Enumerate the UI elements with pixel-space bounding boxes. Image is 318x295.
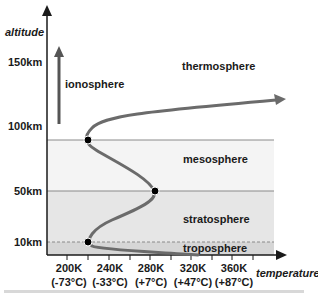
x-tick-240k-celsius: (-33°C) [92,276,128,288]
stratopause-point [151,187,159,195]
x-tick-320k: 320K [180,262,206,274]
x-tick-200k-celsius: (-73°C) [51,276,87,288]
y-tick-100km: 100km [8,120,42,132]
troposphere-label: troposphere [183,242,247,254]
ionosphere-label: ionosphere [65,78,124,90]
mesopause-point [84,136,92,144]
x-tick-200k: 200K [56,262,82,274]
mesosphere-label: mesosphere [183,153,248,165]
tropopause-point [84,238,92,246]
x-tick-240k: 240K [97,262,123,274]
y-tick-10km: 10km [14,236,42,248]
y-axis-title: altitude [5,26,44,38]
x-tick-labels: 200K 240K 280K 320K 360K (-73°C) (-33°C)… [51,262,253,288]
y-tick-150km: 150km [8,56,42,68]
ionosphere-arrow-head-icon [54,46,64,57]
atmosphere-temperature-diagram: altitude 150km 100km 50km 10km ionospher… [0,0,318,295]
y-tick-50km: 50km [14,185,42,197]
stratosphere-label: stratosphere [183,213,250,225]
x-tick-280k-celsius: (+7°C) [135,276,168,288]
x-tick-360k: 360K [221,262,247,274]
x-tick-320k-celsius: (+47°C) [174,276,213,288]
cropped-caption [4,290,304,293]
x-axis-arrow-icon [276,250,287,260]
x-axis-title: temperature [256,267,318,279]
y-axis-arrow-icon [42,5,52,16]
mesosphere-band [47,140,274,191]
x-tick-280k: 280K [138,262,164,274]
thermosphere-label: thermosphere [182,60,255,72]
curve-arrow-head-icon [274,94,286,105]
x-tick-360k-celsius: (+87°C) [215,276,254,288]
